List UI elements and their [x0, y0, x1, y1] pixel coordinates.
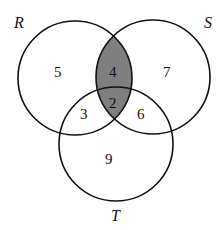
- label-s: S: [204, 14, 212, 31]
- region-r-s: 4: [109, 64, 117, 80]
- region-r-t: 3: [80, 106, 88, 122]
- label-r: R: [13, 14, 24, 31]
- region-s-t: 6: [137, 106, 145, 122]
- region-r-only: 5: [54, 64, 62, 80]
- region-r-s-t: 2: [109, 95, 117, 111]
- region-s-only: 7: [163, 64, 171, 80]
- venn-diagram: R S T 5 7 4 2 3 6 9: [0, 0, 223, 230]
- label-t: T: [111, 207, 121, 224]
- region-t-only: 9: [105, 151, 113, 167]
